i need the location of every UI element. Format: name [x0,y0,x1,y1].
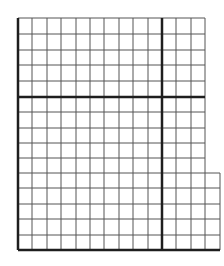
thin-grid-lines [18,18,220,250]
grid-diagram [0,0,224,266]
